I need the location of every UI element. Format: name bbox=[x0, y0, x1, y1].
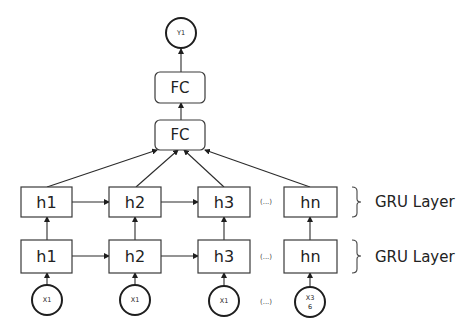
fc-layer-top: FC bbox=[155, 72, 205, 103]
gru-upper-ellipsis: (...) bbox=[260, 198, 272, 206]
gru-network-diagram: Y1 FC FC h1 h2 h3 (...) hn GRU Layer h1 … bbox=[0, 0, 461, 335]
output-label: Y1 bbox=[176, 29, 185, 37]
output-node: Y1 bbox=[166, 18, 196, 48]
fc-layer-bottom: FC bbox=[155, 120, 205, 150]
input-label-2: X1 bbox=[131, 296, 140, 304]
gru-lower-ellipsis: (...) bbox=[260, 253, 272, 261]
gru-lower-cell-h1-label: h1 bbox=[36, 247, 56, 266]
edge-hn-to-fc bbox=[205, 150, 310, 187]
input-circle-4 bbox=[295, 287, 325, 317]
edge-h2-to-fc bbox=[136, 150, 178, 187]
gru-upper-cell-h1-label: h1 bbox=[36, 193, 56, 212]
fc-label-top: FC bbox=[170, 79, 189, 97]
gru-upper-cell-hn-label: hn bbox=[300, 193, 320, 212]
inputs-ellipsis: (...) bbox=[260, 298, 272, 306]
gru-lower-bracket-icon bbox=[352, 240, 361, 273]
gru-upper-cell-h3-label: h3 bbox=[214, 193, 234, 212]
input-label-4-line2: 6 bbox=[308, 303, 312, 311]
gru-lower-cell-h2-label: h2 bbox=[125, 247, 145, 266]
gru-upper-layer-label: GRU Layer bbox=[375, 193, 455, 211]
edge-h3-to-fc bbox=[184, 150, 224, 187]
gru-lower-cell-h3-label: h3 bbox=[214, 247, 234, 266]
edge-h1-to-fc bbox=[47, 150, 157, 187]
gru-lower-cell-hn-label: hn bbox=[300, 247, 320, 266]
input-label-4: X3 bbox=[306, 294, 315, 302]
input-label-1: X1 bbox=[43, 296, 52, 304]
gru-upper-bracket-icon bbox=[352, 187, 361, 217]
gru-upper-cell-h2-label: h2 bbox=[125, 193, 145, 212]
fc-label-bottom: FC bbox=[170, 126, 189, 144]
input-label-3: X1 bbox=[220, 297, 229, 305]
input-nodes: X1 X1 X1 (...) X3 6 bbox=[32, 285, 325, 317]
gru-lower-layer-label: GRU Layer bbox=[375, 248, 455, 266]
